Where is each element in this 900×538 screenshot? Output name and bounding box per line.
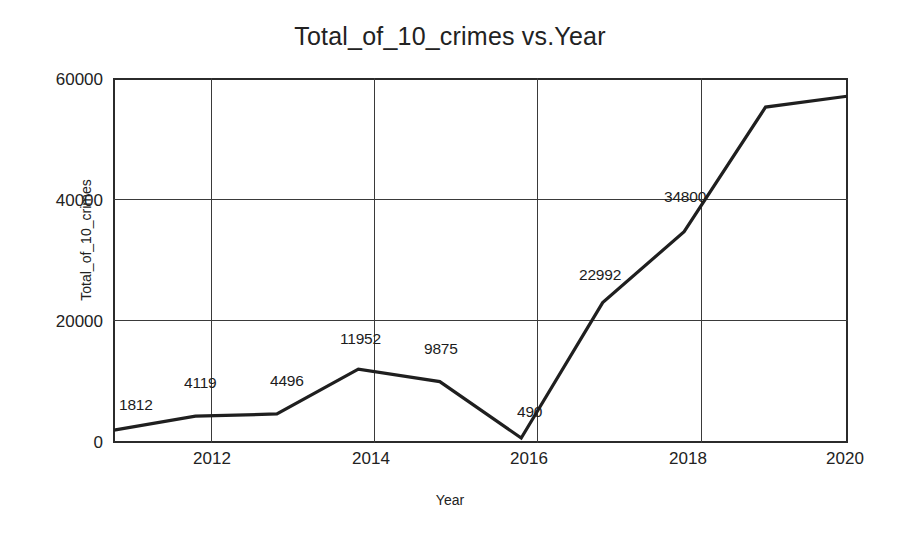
- point-label-2013: 4496: [270, 372, 304, 390]
- y-axis-tick-0: 0: [13, 433, 103, 453]
- x-axis-tick-2012: 2012: [167, 449, 257, 469]
- chart-figure: Total_of_10_crimes vs.Year 60000 40000 2…: [0, 0, 900, 538]
- chart-title: Total_of_10_crimes vs.Year: [0, 22, 900, 51]
- y-axis-label: Total_of_10_crimes: [78, 145, 94, 335]
- point-label-2016: 490: [517, 403, 542, 421]
- x-axis-tick-2016: 2016: [484, 449, 574, 469]
- point-label-2018: 34800: [664, 188, 706, 206]
- point-label-2017: 22992: [579, 266, 621, 284]
- point-label-2014: 11952: [340, 330, 381, 348]
- x-axis-tick-2018: 2018: [643, 449, 733, 469]
- series-line-total-of-10-crimes: [113, 78, 848, 443]
- x-axis-tick-2020: 2020: [800, 449, 890, 469]
- point-label-2011: 1812: [119, 396, 153, 414]
- y-axis-tick-60000: 60000: [13, 70, 103, 90]
- x-axis-label: Year: [0, 492, 900, 508]
- point-label-2015: 9875: [424, 340, 458, 358]
- point-label-2012: 4119: [184, 374, 217, 392]
- plot-area: 1812 4119 4496 11952 9875 490 22992 3480…: [113, 78, 848, 443]
- x-axis-tick-2014: 2014: [326, 449, 416, 469]
